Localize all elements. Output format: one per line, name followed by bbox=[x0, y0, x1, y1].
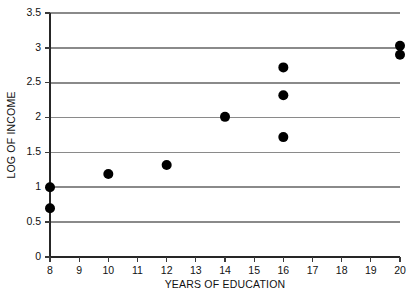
y-axis-title: LOG OF INCOME bbox=[5, 91, 17, 178]
y-axis-group bbox=[45, 13, 50, 257]
y-tick-label: 2 bbox=[35, 110, 41, 122]
x-tick-labels-group: 891011121314151617181920 bbox=[47, 264, 406, 276]
x-tick-label: 19 bbox=[365, 264, 377, 276]
data-point bbox=[45, 203, 55, 213]
data-point bbox=[278, 90, 288, 100]
y-tick-label: 3.5 bbox=[26, 6, 41, 18]
y-tick-labels-group: 00.511.522.533.5 bbox=[26, 6, 41, 262]
y-tick-label: 1.5 bbox=[26, 145, 41, 157]
data-point bbox=[220, 112, 230, 122]
data-point bbox=[395, 50, 405, 60]
x-tick-label: 8 bbox=[47, 264, 53, 276]
x-tick-label: 9 bbox=[76, 264, 82, 276]
y-tick-label: 0 bbox=[35, 250, 41, 262]
y-tick-label: 2.5 bbox=[26, 75, 41, 87]
x-tick-label: 11 bbox=[132, 264, 143, 276]
x-tick-label: 20 bbox=[394, 264, 406, 276]
x-tick-label: 14 bbox=[219, 264, 231, 276]
x-tick-label: 18 bbox=[336, 264, 348, 276]
y-tick-label: 3 bbox=[35, 41, 41, 53]
x-tick-label: 13 bbox=[190, 264, 202, 276]
y-tick-label: 0.5 bbox=[26, 215, 41, 227]
x-tick-label: 16 bbox=[277, 264, 289, 276]
data-point bbox=[278, 62, 288, 72]
x-axis-title: YEARS OF EDUCATION bbox=[165, 278, 286, 290]
data-point bbox=[103, 169, 113, 179]
x-tick-label: 17 bbox=[307, 264, 319, 276]
x-tick-label: 15 bbox=[248, 264, 260, 276]
data-point bbox=[395, 41, 405, 51]
x-axis-group bbox=[50, 257, 400, 262]
x-tick-label: 10 bbox=[102, 264, 114, 276]
scatter-chart: 00.511.522.533.5 89101112131415161718192… bbox=[0, 0, 417, 298]
chart-canvas: 00.511.522.533.5 89101112131415161718192… bbox=[0, 0, 417, 298]
y-tick-label: 1 bbox=[35, 180, 41, 192]
x-tick-label: 12 bbox=[161, 264, 173, 276]
data-point bbox=[162, 160, 172, 170]
data-point bbox=[45, 182, 55, 192]
data-point bbox=[278, 132, 288, 142]
